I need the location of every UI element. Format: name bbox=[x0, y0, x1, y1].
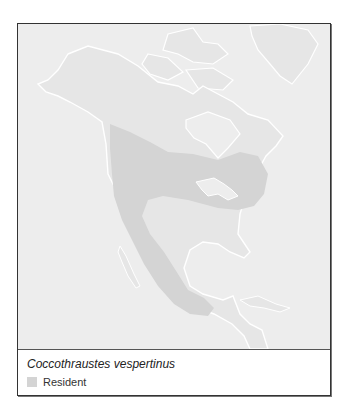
legend-swatch-resident bbox=[27, 377, 37, 387]
map-figure: Coccothraustes vespertinus Resident bbox=[17, 23, 331, 396]
species-name: Coccothraustes vespertinus bbox=[27, 357, 175, 371]
caribbean-islands bbox=[240, 296, 290, 312]
caption-divider bbox=[18, 349, 330, 350]
arctic-islands bbox=[163, 28, 228, 64]
arctic-islands-3 bbox=[186, 68, 233, 90]
legend: Resident bbox=[27, 376, 86, 388]
map-svg bbox=[18, 24, 330, 349]
range-map bbox=[18, 24, 330, 349]
greenland-landmass bbox=[250, 24, 318, 84]
legend-label-resident: Resident bbox=[43, 376, 86, 388]
baja-peninsula bbox=[118, 246, 140, 288]
